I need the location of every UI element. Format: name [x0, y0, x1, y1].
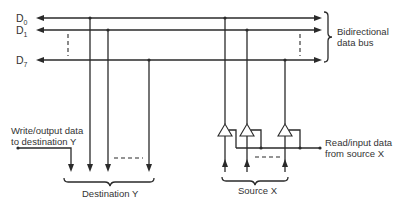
source-label: Source X [238, 185, 278, 196]
arrow-down-icon [105, 164, 111, 172]
bus-label-d1: D1 [16, 24, 28, 38]
write-label-line2: to destination Y [11, 136, 77, 147]
source-brace [222, 177, 288, 185]
bus-line-d7 [36, 57, 322, 63]
bus-brace [324, 12, 332, 62]
arrow-right-icon [314, 15, 322, 21]
write-control-line [16, 146, 74, 172]
write-label-line1: Write/output data [11, 125, 84, 136]
svg-text:D7: D7 [16, 54, 28, 68]
destination-y-taps [87, 16, 152, 172]
arrow-left-icon [36, 27, 44, 33]
arrow-left-icon [36, 15, 44, 21]
arrow-left-icon [36, 57, 44, 63]
bus-label-d7: D7 [16, 54, 28, 68]
source-x-taps [223, 16, 286, 124]
svg-text:D1: D1 [16, 24, 28, 38]
arrow-right-icon [314, 57, 322, 63]
read-control-line [236, 146, 322, 157]
bus-label-line1: Bidirectional [337, 26, 389, 37]
bus-diagram: D0 D1 D7 Bidirectional data bus [0, 0, 401, 209]
arrow-up-icon [282, 159, 288, 167]
arrow-right-icon [314, 27, 322, 33]
arrow-down-icon [146, 164, 152, 172]
arrow-up-icon [244, 159, 250, 167]
bus-line-d0 [36, 15, 322, 21]
read-label-line1: Read/input data [325, 137, 393, 148]
destination-brace [64, 178, 154, 186]
bus-line-d1 [36, 27, 322, 33]
read-label-line2: from source X [325, 148, 385, 159]
bus-label-line2: data bus [337, 37, 374, 48]
tristate-buffer-1 [218, 124, 236, 172]
destination-label: Destination Y [82, 188, 139, 199]
arrow-up-icon [222, 159, 228, 167]
arrow-down-icon [68, 164, 74, 172]
arrow-down-icon [87, 164, 93, 172]
